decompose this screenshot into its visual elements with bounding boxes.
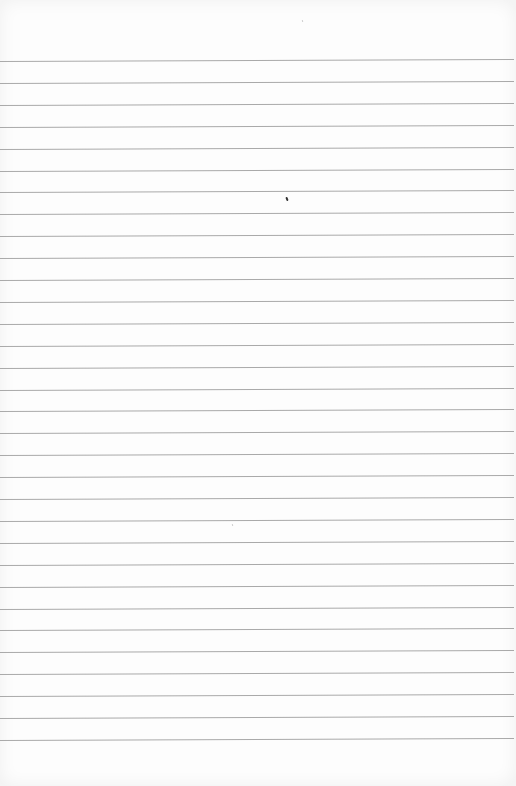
ruled-line	[0, 234, 514, 237]
ink-speck	[302, 20, 304, 22]
ruled-line	[0, 322, 514, 325]
ruled-line	[0, 256, 514, 259]
ruled-line	[0, 738, 514, 741]
ruled-line	[0, 344, 514, 347]
ruled-line	[0, 628, 514, 631]
ruled-line	[0, 431, 514, 434]
ruled-line	[0, 190, 514, 193]
ruled-line	[0, 366, 514, 369]
ruled-line	[0, 607, 514, 610]
ruled-line	[0, 103, 514, 106]
ruled-line	[0, 300, 514, 303]
ruled-line	[0, 169, 514, 172]
ruled-line	[0, 694, 514, 697]
ruled-line	[0, 81, 514, 84]
ruled-line	[0, 278, 514, 281]
ruled-line	[0, 541, 514, 544]
ruled-line	[0, 650, 514, 653]
ruled-line	[0, 519, 514, 522]
ruled-line	[0, 563, 514, 566]
ruled-line	[0, 147, 514, 150]
ruled-line	[0, 475, 514, 478]
ruled-line	[0, 59, 514, 62]
ink-speck	[232, 524, 234, 526]
ruled-line	[0, 388, 514, 391]
ruled-line	[0, 672, 514, 675]
ruled-line	[0, 716, 514, 719]
ink-speck	[285, 197, 288, 201]
ruled-line	[0, 585, 514, 588]
ruled-line	[0, 212, 514, 215]
ruled-line	[0, 409, 514, 412]
ruled-line	[0, 453, 514, 456]
ruled-paper-page	[0, 0, 516, 786]
ruled-line	[0, 125, 514, 128]
ruled-line	[0, 497, 514, 500]
